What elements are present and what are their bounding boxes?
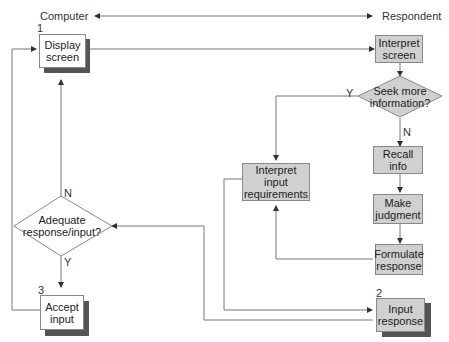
node-text: Make [385, 197, 412, 209]
node-text: response [378, 315, 423, 327]
step-number-1: 1 [37, 22, 43, 34]
node-text: information? [368, 97, 432, 109]
node-text: judgment [375, 209, 420, 221]
node-text: Input [388, 303, 412, 315]
node-seek-more-information[interactable]: Seek more information? [368, 85, 432, 109]
node-interpret-screen[interactable]: Interpret screen [375, 35, 423, 63]
node-text: Interpret [379, 37, 420, 49]
node-adequate-response[interactable]: Adequate response/input? [16, 214, 108, 238]
node-accept-input[interactable]: Accept input [40, 295, 84, 330]
node-text: Seek more [368, 85, 432, 97]
node-text: response/input? [16, 226, 108, 238]
node-formulate-response[interactable]: Formulate response [375, 244, 423, 275]
edge-label-adequate-yes: Y [64, 256, 71, 268]
node-text: response [376, 260, 421, 272]
respondent-label: Respondent [382, 10, 441, 22]
edge-label-adequate-no: N [64, 187, 72, 199]
node-text: screen [46, 51, 79, 63]
node-text: Recall info [374, 148, 422, 172]
node-display-screen[interactable]: Display screen [39, 34, 86, 68]
computer-label: Computer [40, 10, 88, 22]
node-make-judgment[interactable]: Make judgment [373, 194, 423, 224]
node-text: Accept [45, 301, 79, 313]
node-text: Formulate [374, 248, 424, 260]
node-text: requirements [244, 188, 308, 200]
edge-label-seek-no: N [403, 126, 411, 138]
node-text: input [50, 313, 74, 325]
node-text: input [264, 176, 288, 188]
node-text: screen [382, 49, 415, 61]
node-text: Adequate [16, 214, 108, 226]
node-text: Display [44, 39, 80, 51]
node-recall-info[interactable]: Recall info [373, 146, 423, 174]
node-input-response[interactable]: Input response [376, 298, 425, 332]
node-interpret-input-requirements[interactable]: Interpret input requirements [242, 163, 310, 201]
node-text: Interpret [256, 164, 297, 176]
edge-label-seek-yes: Y [346, 87, 353, 99]
